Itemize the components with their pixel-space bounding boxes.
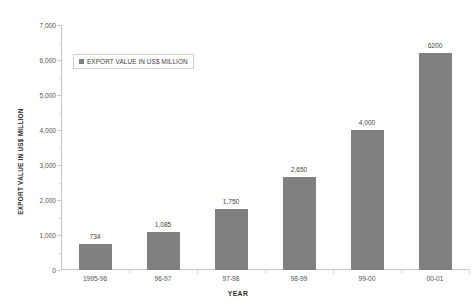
x-axis-tick-label: 99-00 [359, 275, 376, 282]
x-axis-tick [333, 270, 334, 274]
y-axis-minor-tick [59, 183, 61, 184]
bar-chart: EXPORT VALUE IN US$ MILLION 01,0002,0003… [0, 0, 476, 305]
y-axis-minor-tick [59, 253, 61, 254]
series-color-swatch-icon [79, 59, 84, 64]
bar [215, 209, 248, 270]
chart-legend: EXPORT VALUE IN US$ MILLION [73, 54, 194, 69]
x-axis-tick [469, 270, 470, 274]
y-axis-title: EXPORT VALUE IN US$ MILLION [13, 95, 27, 227]
y-axis-major-tick [57, 165, 61, 166]
x-axis-tick-labels: 1995-9696-9797-9898-9999-0000-01 [61, 275, 469, 287]
y-axis-tick-label: 1,000 [26, 232, 56, 239]
y-axis-tick-label: 6,000 [26, 57, 56, 64]
bar-value-label: 734 [89, 233, 100, 240]
y-axis-major-tick [57, 200, 61, 201]
bar [147, 232, 180, 270]
bar-value-label: 4,000 [359, 119, 376, 126]
y-axis-tick-label: 0 [26, 267, 56, 274]
bar-value-label: 1,750 [223, 198, 240, 205]
y-axis-major-tick [57, 60, 61, 61]
y-axis-tick-labels: 01,0002,0003,0004,0005,0006,0007,000 [26, 0, 56, 305]
y-axis-major-tick [57, 95, 61, 96]
y-axis-major-tick [57, 130, 61, 131]
bar-value-label: 6200 [428, 42, 443, 49]
x-axis-tick-label: 98-99 [291, 275, 308, 282]
y-axis-title-text: EXPORT VALUE IN US$ MILLION [17, 108, 24, 214]
bar-value-label: 1,085 [155, 221, 172, 228]
bar [351, 130, 384, 270]
y-axis-major-tick [57, 25, 61, 26]
y-axis-minor-tick [59, 113, 61, 114]
bar [283, 177, 316, 270]
y-axis-major-tick [57, 235, 61, 236]
legend-label: EXPORT VALUE IN US$ MILLION [87, 58, 188, 65]
y-axis-minor-tick [59, 43, 61, 44]
bar-value-label: 2,650 [291, 166, 308, 173]
y-axis-major-tick [57, 270, 61, 271]
x-axis-tick [197, 270, 198, 274]
x-axis-tick-label: 00-01 [427, 275, 444, 282]
y-axis-minor-tick [59, 218, 61, 219]
y-axis-minor-tick [59, 148, 61, 149]
y-axis-tick-label: 5,000 [26, 92, 56, 99]
bar [79, 244, 112, 270]
y-axis-tick-label: 4,000 [26, 127, 56, 134]
y-axis-tick-label: 3,000 [26, 162, 56, 169]
bar [419, 53, 452, 270]
x-axis-tick [265, 270, 266, 274]
y-axis-minor-tick [59, 78, 61, 79]
x-axis-tick-label: 1995-96 [83, 275, 107, 282]
x-axis-title: YEAR [0, 290, 476, 297]
y-axis-line [61, 25, 62, 270]
y-axis-tick-label: 2,000 [26, 197, 56, 204]
x-axis-tick [129, 270, 130, 274]
x-axis-tick [401, 270, 402, 274]
x-axis-tick-label: 97-98 [223, 275, 240, 282]
y-axis-tick-label: 7,000 [26, 22, 56, 29]
x-axis-tick-label: 96-97 [155, 275, 172, 282]
